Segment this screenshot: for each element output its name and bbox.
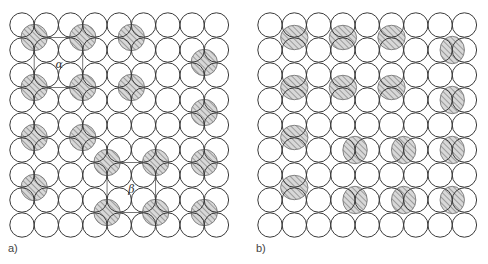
substrate-atom [156,63,180,87]
substrate-atom [355,163,379,187]
substrate-atom [404,63,428,87]
substrate-atom [355,88,379,112]
lattice-diagram: αβ [0,0,488,264]
substrate-atom [428,13,452,37]
substrate-atom [306,213,330,237]
panel-a-label: a) [8,242,18,254]
substrate-atom [379,163,403,187]
substrate-atom [204,13,228,37]
substrate-atom [156,88,180,112]
substrate-atom [58,163,82,187]
substrate-atom [10,213,34,237]
substrate-atom [306,113,330,137]
unit-cell-label-beta: β [127,183,134,196]
panel-a-lattice: αβ [10,13,229,237]
substrate-atom [306,88,330,112]
substrate-atom [404,13,428,37]
substrate-atom [404,38,428,62]
substrate-atom [379,113,403,137]
substrate-atom [331,113,355,137]
substrate-atom [331,213,355,237]
substrate-atom [34,213,58,237]
substrate-atom [355,213,379,237]
substrate-atom [306,63,330,87]
substrate-atom [452,13,476,37]
substrate-atom [258,88,282,112]
panel-b-label: b) [256,242,266,254]
substrate-atom [428,63,452,87]
substrate-atom [258,138,282,162]
unit-cell-label-alpha: α [55,58,63,71]
substrate-atom [355,13,379,37]
substrate-atom [404,113,428,137]
substrate-atom [379,213,403,237]
substrate-atom [258,188,282,212]
substrate-atom [156,113,180,137]
substrate-atom [452,113,476,137]
substrate-atom [452,213,476,237]
substrate-atom [306,163,330,187]
substrate-atom [404,88,428,112]
substrate-atom [428,113,452,137]
substrate-atom [452,163,476,187]
substrate-atom [156,38,180,62]
substrate-atom [258,13,282,37]
substrate-atom [428,213,452,237]
substrate-atom [404,213,428,237]
substrate-atom [58,188,82,212]
substrate-atom [306,38,330,62]
substrate-atom [258,113,282,137]
substrate-atom [131,113,155,137]
substrate-atom [306,188,330,212]
substrate-atom [107,113,131,137]
substrate-atom [331,163,355,187]
substrate-atom [58,213,82,237]
substrate-atom [258,63,282,87]
panel-b-lattice [258,13,477,237]
substrate-atom [306,13,330,37]
substrate-atom [180,13,204,37]
substrate-atom [355,63,379,87]
substrate-atom [404,163,428,187]
substrate-atom [258,163,282,187]
substrate-atom [258,213,282,237]
substrate-atom [258,38,282,62]
substrate-atom [156,13,180,37]
substrate-atom [282,213,306,237]
substrate-atom [452,63,476,87]
substrate-atom [306,138,330,162]
substrate-atom [428,163,452,187]
substrate-atom [355,38,379,62]
substrate-atom [355,113,379,137]
figure: αβ a) b) [0,0,488,264]
